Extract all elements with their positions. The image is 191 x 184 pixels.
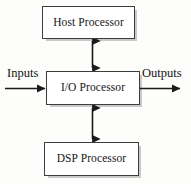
- outputs-label: Outputs: [142, 67, 182, 80]
- node-host-processor-label: Host Processor: [53, 17, 124, 29]
- node-io-processor-label: I/O Processor: [61, 82, 125, 94]
- block-diagram: Host Processor I/O Processor DSP Process…: [0, 0, 191, 184]
- node-host-processor: Host Processor: [42, 6, 135, 39]
- node-io-processor: I/O Processor: [46, 71, 140, 105]
- inputs-label: Inputs: [7, 67, 38, 80]
- node-dsp-processor-label: DSP Processor: [57, 153, 127, 165]
- node-dsp-processor: DSP Processor: [44, 142, 139, 176]
